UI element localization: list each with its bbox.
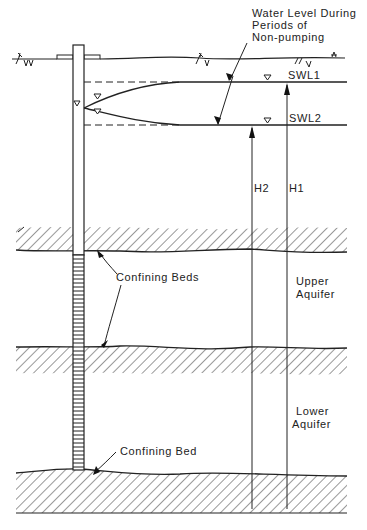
upper-aquifer-label-line1: Upper xyxy=(296,275,329,287)
confining-bed-middle xyxy=(16,346,347,375)
confining-beds-label: Confining Beds xyxy=(116,271,199,283)
lower-aquifer-label-line2: Aquifer xyxy=(292,418,331,430)
water-level-label-line3: Non-pumping xyxy=(252,31,325,43)
confining-bed-label: Confining Bed xyxy=(120,445,197,457)
water-level-label-line1: Water Level During xyxy=(252,7,357,19)
swl2-label: SWL2 xyxy=(289,112,321,124)
ground-surface xyxy=(12,55,345,59)
confining-bed-upper xyxy=(16,227,347,253)
h1-label: H1 xyxy=(289,182,304,194)
h1-arrow xyxy=(284,83,290,509)
swl1-label: SWL1 xyxy=(288,69,320,81)
upper-aquifer-label-line2: Aquifer xyxy=(296,288,335,300)
water-level-pointer-arrow xyxy=(214,43,247,125)
h2-label: H2 xyxy=(254,182,269,194)
swl1-line xyxy=(84,82,347,108)
aquifer-diagram: Water Level During Periods of Non-pumpin… xyxy=(0,0,367,530)
lower-aquifer-label-line1: Lower xyxy=(296,405,329,417)
well-screen xyxy=(73,255,84,470)
water-level-label-line2: Periods of xyxy=(252,19,308,31)
confining-beds-pointer xyxy=(100,253,121,346)
well-casing xyxy=(73,45,84,255)
